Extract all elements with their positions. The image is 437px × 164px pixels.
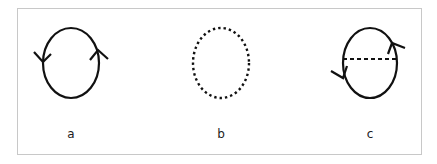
solid-loop [343, 28, 397, 98]
diagram-a [34, 28, 108, 98]
label-b: b [211, 127, 231, 141]
label-c: c [360, 127, 380, 141]
diagram-c [331, 28, 405, 98]
dotted-loop [193, 28, 249, 98]
diagram-b [193, 28, 249, 98]
label-a: a [61, 127, 81, 141]
solid-loop [43, 28, 99, 98]
arrow-down-icon [331, 66, 347, 78]
